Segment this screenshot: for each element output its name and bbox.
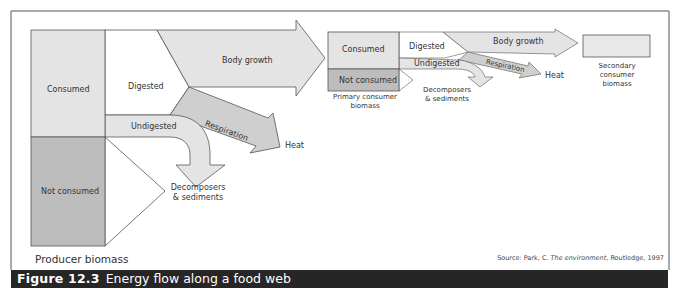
secondary-consumer-label: Secondary consumer biomass — [584, 62, 650, 89]
primary-body-growth-label: Body growth — [493, 37, 544, 47]
secondary-consumer-box — [583, 35, 650, 57]
producer-not-consumed-label: Not consumed — [41, 187, 99, 197]
producer-consumed-label: Consumed — [47, 85, 90, 95]
producer-digested-label: Digested — [128, 82, 164, 92]
primary-not-consumed-label: Not consumed — [339, 76, 397, 86]
source-citation: Source: Park, C. The environment, Routle… — [497, 254, 664, 262]
figure-number: Figure 12.3 — [17, 271, 100, 286]
food-web-energy-flow-diagram: Consumed Not consumed Producer biomass D… — [0, 0, 682, 297]
producer-decomposers-label: Decomposers & sediments — [168, 183, 228, 203]
primary-heat-label: Heat — [545, 71, 564, 81]
primary-undigested-label: Undigested — [414, 59, 460, 69]
producer-undigested-label: Undigested — [131, 122, 177, 132]
figure-caption-bar: Figure 12.3Energy flow along a food web — [11, 270, 668, 288]
primary-decomposers-label: Decomposers & sediments — [417, 86, 477, 104]
producer-body-growth-label: Body growth — [222, 56, 273, 66]
producer-biomass-label: Producer biomass — [35, 253, 128, 265]
producer-consumed-box — [31, 30, 105, 137]
primary-consumed-label: Consumed — [342, 45, 385, 55]
producer-not-consumed-triangle — [105, 137, 165, 246]
producer-heat-label: Heat — [285, 141, 304, 151]
figure-title: Energy flow along a food web — [106, 271, 291, 286]
primary-biomass-label: Primary consumer biomass — [325, 93, 405, 111]
primary-digested-label: Digested — [409, 42, 445, 52]
